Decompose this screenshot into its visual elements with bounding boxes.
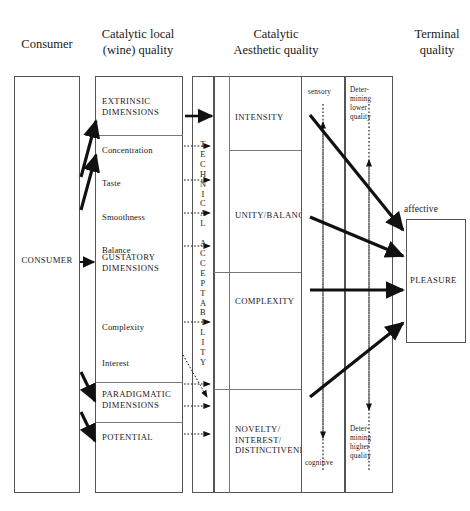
wine-divider-3 <box>95 422 183 423</box>
pleasure-label: PLEASURE <box>410 275 457 286</box>
cognitive-label: cognitive <box>305 459 333 468</box>
header-terminal-quality: Terminal quality <box>398 26 470 58</box>
ta-letter: I <box>196 190 210 200</box>
sensory-label: sensory <box>308 88 331 97</box>
arrow-group-consumer-to-wine <box>81 121 96 441</box>
sensory-cognitive-column-box <box>301 76 345 493</box>
ta-letter: E <box>196 269 210 279</box>
arrow-consumer-to-paradigmatic <box>81 372 95 401</box>
header-catalytic-aesthetic-quality: Catalytic Aesthetic quality <box>210 26 342 58</box>
aesthetic-row-complexity: COMPLEXITY <box>235 296 295 307</box>
aesthetic-row-intensity: INTENSITY <box>235 112 284 123</box>
wine-divider-2 <box>95 382 183 383</box>
determining-lower-quality-label: Deter- mining lower quality <box>350 86 394 122</box>
header-consumer: Consumer <box>6 36 88 52</box>
ta-letter: E <box>196 150 210 160</box>
ta-letter: L <box>196 219 210 229</box>
wine-row-interest: Interest <box>102 358 129 369</box>
ta-letter: H <box>196 170 210 180</box>
wine-row-extrinsic-dimensions: EXTRINSIC DIMENSIONS <box>102 96 182 117</box>
wine-row-smoothness: Smoothness <box>102 212 145 223</box>
arrow-consumer-to-concentration <box>81 155 96 210</box>
ta-letter: I <box>196 318 210 328</box>
technical-acceptability-letters: TECHNICAL ACCEPTABILITY <box>196 140 210 368</box>
ta-letter: A <box>196 209 210 219</box>
ta-letter: L <box>196 328 210 338</box>
wine-row-potential: POTENTIAL <box>102 432 153 443</box>
ta-letter: A <box>196 239 210 249</box>
wine-row-gustatory-dimensions: GUSTATORY DIMENSIONS <box>102 252 182 273</box>
ta-letter: T <box>196 289 210 299</box>
ta-letter: T <box>196 348 210 358</box>
ta-letter: C <box>196 160 210 170</box>
ta-letter: N <box>196 180 210 190</box>
arrow-consumer-to-extrinsic <box>81 121 96 177</box>
header-catalytic-local-wine-quality: Catalytic local (wine) quality <box>86 26 190 58</box>
ta-letter: I <box>196 338 210 348</box>
ta-letter: Y <box>196 358 210 368</box>
arrow-consumer-to-potential <box>81 412 95 441</box>
affective-label: affective <box>404 204 438 215</box>
ta-letter: T <box>196 140 210 150</box>
aesthetic-row-unity-balance: UNITY/BALANCE <box>235 210 310 221</box>
ta-letter: B <box>196 308 210 318</box>
wine-divider-1 <box>95 135 183 136</box>
ta-letter <box>196 229 210 239</box>
ta-letter: C <box>196 199 210 209</box>
wine-row-taste: Taste <box>102 178 121 189</box>
ta-letter: C <box>196 259 210 269</box>
aesthetic-inner-vline <box>229 76 230 493</box>
consumer-box <box>14 76 80 493</box>
wine-row-paradigmatic-dimensions: PARADIGMATIC DIMENSIONS <box>102 389 186 410</box>
consumer-label: CONSUMER <box>16 255 78 266</box>
wine-row-complexity: Complexity <box>102 322 144 333</box>
ta-letter: A <box>196 299 210 309</box>
wine-row-concentration: Concentration <box>102 145 153 156</box>
wine-quality-box <box>95 76 183 493</box>
ta-letter: P <box>196 279 210 289</box>
ta-letter: C <box>196 249 210 259</box>
determining-higher-quality-label: Deter- mining higher quality <box>350 425 394 461</box>
